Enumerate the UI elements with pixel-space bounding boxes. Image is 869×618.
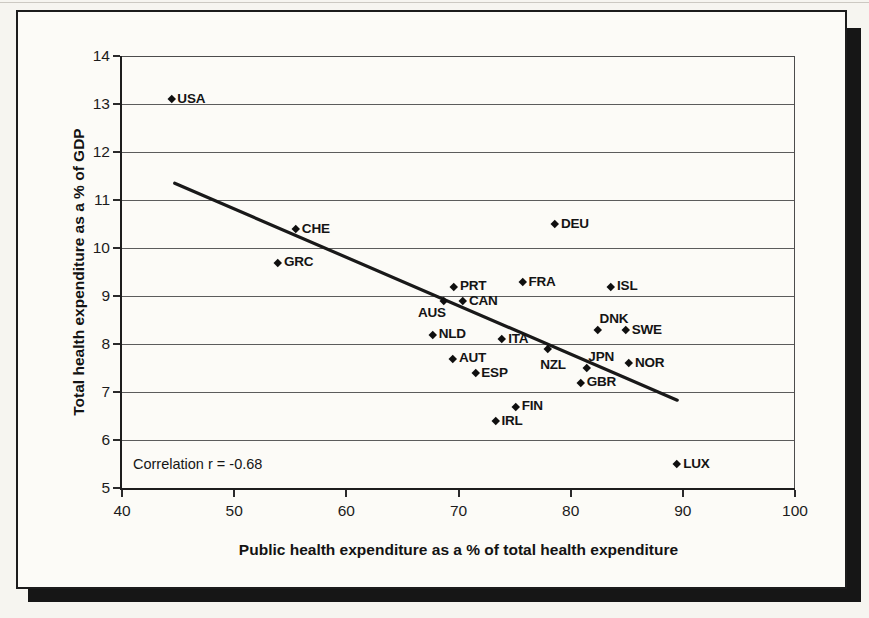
x-tick-mark-40	[121, 490, 123, 497]
data-point-label-CHE: CHE	[302, 220, 330, 238]
data-point-label-CAN: CAN	[469, 292, 498, 310]
y-tick-label-8: 8	[64, 335, 110, 353]
x-tick-label-100: 100	[773, 502, 817, 520]
y-tick-mark-13	[113, 103, 120, 105]
x-tick-mark-90	[682, 490, 684, 497]
scan-edge-line	[0, 2, 869, 3]
data-point-label-NLD: NLD	[439, 325, 466, 343]
y-tick-mark-10	[113, 247, 120, 249]
x-tick-mark-80	[570, 490, 572, 497]
y-tick-mark-9	[113, 295, 120, 297]
trend-line	[122, 56, 795, 488]
y-tick-label-14: 14	[64, 47, 110, 65]
data-point-label-DNK: DNK	[600, 310, 629, 328]
x-tick-mark-70	[458, 490, 460, 497]
x-tick-label-80: 80	[549, 502, 593, 520]
y-tick-label-5: 5	[64, 479, 110, 497]
x-tick-label-50: 50	[212, 502, 256, 520]
x-tick-label-40: 40	[100, 502, 144, 520]
y-tick-label-9: 9	[64, 287, 110, 305]
data-point-label-ISL: ISL	[617, 277, 637, 295]
x-tick-mark-50	[233, 490, 235, 497]
y-tick-label-10: 10	[64, 239, 110, 257]
data-point-label-ITA: ITA	[508, 330, 528, 348]
data-point-label-GRC: GRC	[284, 253, 313, 271]
y-tick-mark-12	[113, 151, 120, 153]
data-point-label-NOR: NOR	[635, 354, 664, 372]
x-axis-title: Public health expenditure as a % of tota…	[122, 541, 795, 559]
y-tick-label-6: 6	[64, 431, 110, 449]
data-point-label-SWE: SWE	[632, 321, 662, 339]
y-tick-mark-7	[113, 391, 120, 393]
data-point-label-IRL: IRL	[502, 412, 523, 430]
y-tick-mark-8	[113, 343, 120, 345]
y-tick-label-12: 12	[64, 143, 110, 161]
data-point-label-JPN: JPN	[588, 348, 614, 366]
x-tick-label-90: 90	[661, 502, 705, 520]
y-tick-mark-11	[113, 199, 120, 201]
data-point-label-DEU: DEU	[561, 215, 589, 233]
data-point-label-FIN: FIN	[522, 397, 543, 415]
y-axis-title: Total health expenditure as a % of GDP	[70, 128, 88, 415]
plot-area: Correlation r = -0.68 567891011121314405…	[122, 56, 795, 488]
y-tick-mark-5	[113, 487, 120, 489]
y-tick-label-7: 7	[64, 383, 110, 401]
x-tick-mark-60	[345, 490, 347, 497]
x-tick-mark-100	[794, 490, 796, 497]
data-point-label-GBR: GBR	[587, 373, 616, 391]
data-point-label-FRA: FRA	[528, 273, 555, 291]
y-tick-label-11: 11	[64, 191, 110, 209]
data-point-label-AUS: AUS	[418, 304, 446, 322]
y-tick-mark-6	[113, 439, 120, 441]
y-tick-mark-14	[113, 55, 120, 57]
data-point-label-NZL: NZL	[540, 356, 566, 374]
data-point-label-ESP: ESP	[481, 364, 507, 382]
x-tick-label-70: 70	[437, 502, 481, 520]
data-point-label-LUX: LUX	[683, 455, 709, 473]
x-tick-label-60: 60	[324, 502, 368, 520]
data-point-label-USA: USA	[177, 90, 205, 108]
y-tick-label-13: 13	[64, 95, 110, 113]
